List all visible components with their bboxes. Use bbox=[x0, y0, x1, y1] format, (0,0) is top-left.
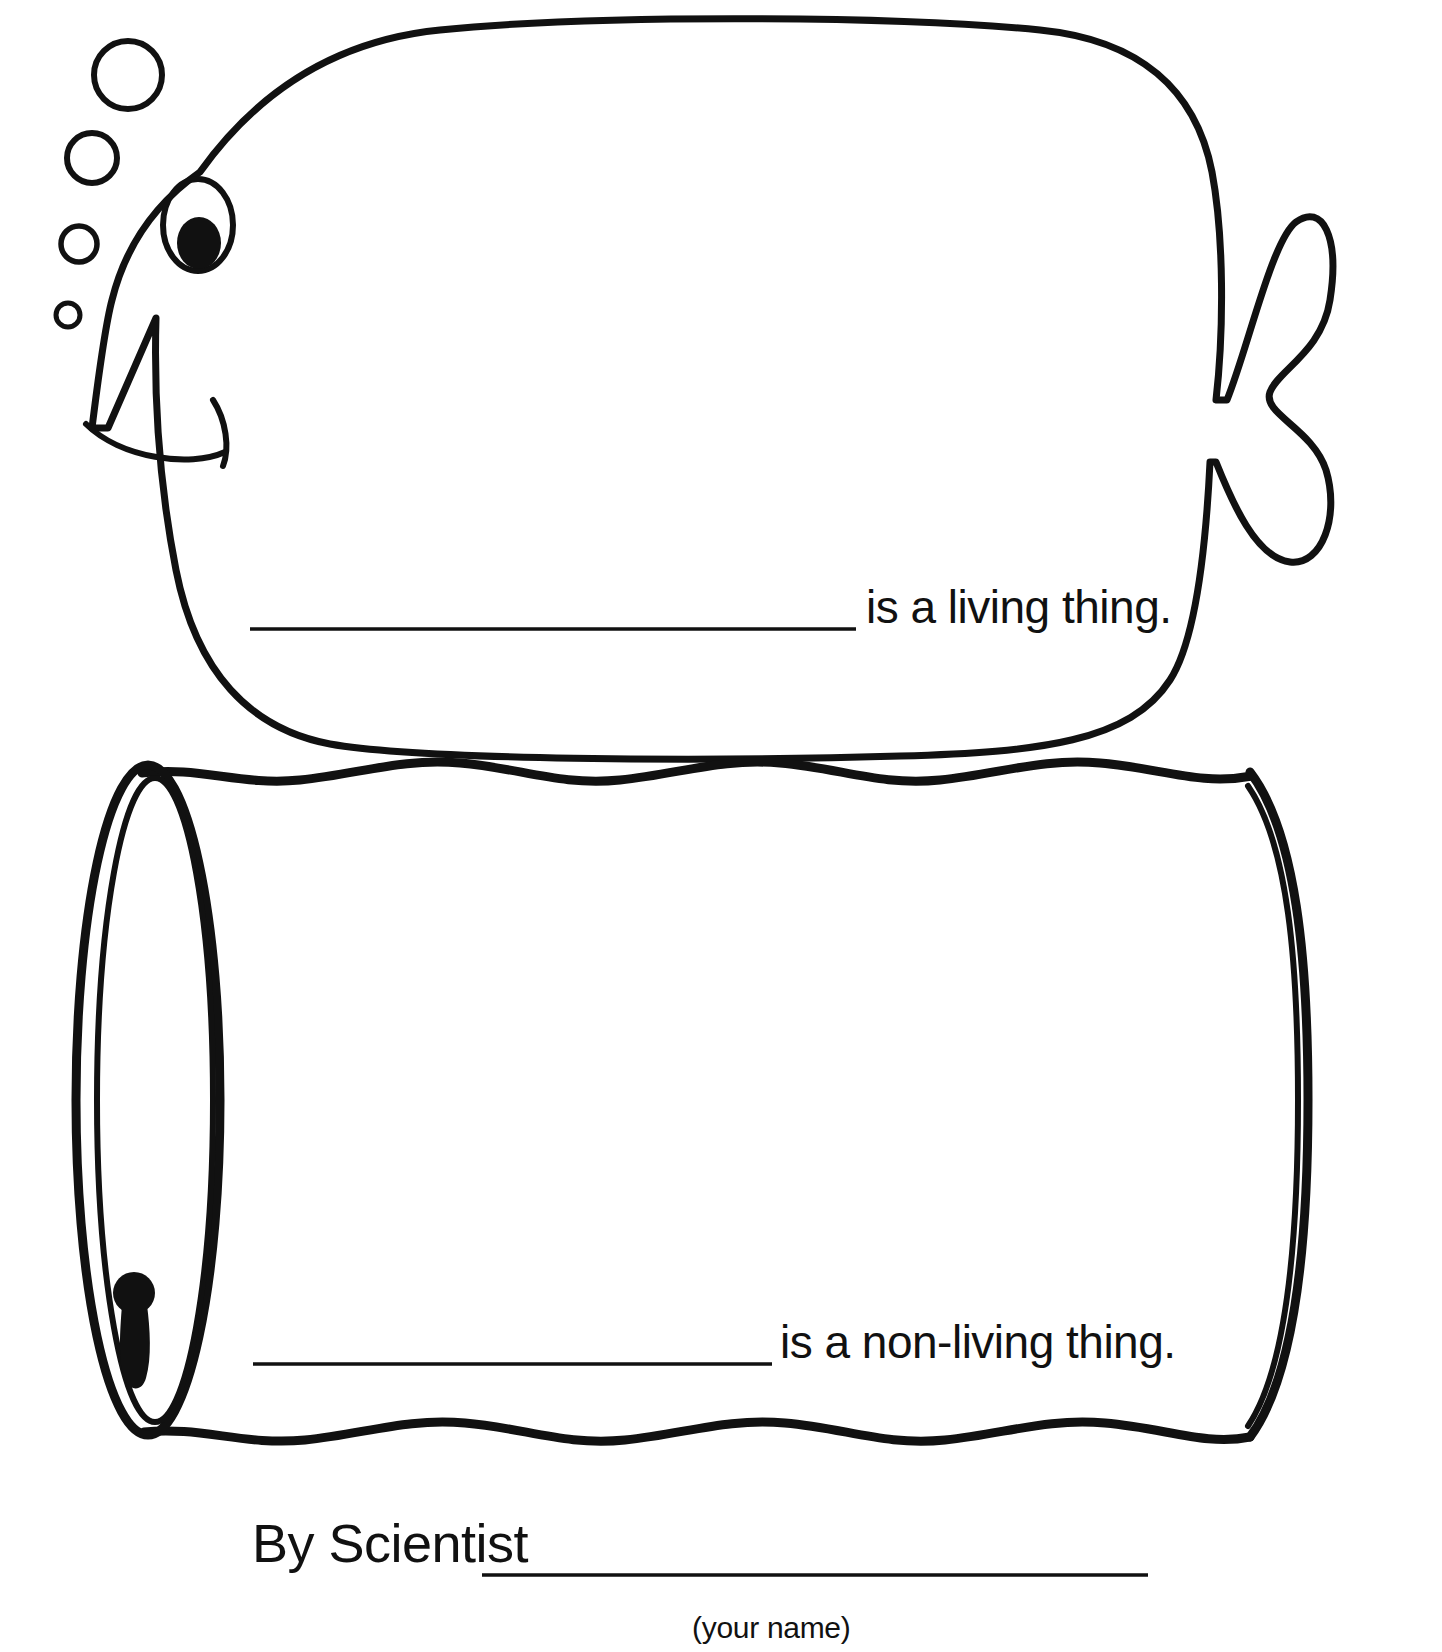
by-scientist-label: By Scientist bbox=[252, 1513, 529, 1573]
can-keyhole-punch-icon bbox=[113, 1272, 155, 1389]
bubble-3-icon bbox=[61, 226, 97, 262]
can-bottom-edge bbox=[144, 1422, 1250, 1441]
living-caption: is a living thing. bbox=[866, 581, 1172, 633]
fish-pupil bbox=[177, 217, 221, 269]
fish-body-outline bbox=[92, 19, 1333, 759]
bubble-4-icon bbox=[56, 303, 80, 327]
worksheet-illustration-canvas: is a living thing. is a non-livi bbox=[0, 0, 1442, 1652]
bubble-group bbox=[56, 41, 162, 327]
nonliving-caption: is a non-living thing. bbox=[780, 1316, 1176, 1368]
your-name-hint: (your name) bbox=[692, 1611, 850, 1644]
bubble-1-icon bbox=[94, 41, 162, 109]
can-left-rim-inner bbox=[97, 778, 213, 1422]
fish-drawing bbox=[86, 19, 1333, 759]
can-top-edge bbox=[142, 762, 1252, 781]
worksheet-page: is a living thing. is a non-livi bbox=[0, 0, 1442, 1652]
bubble-2-icon bbox=[67, 133, 117, 183]
